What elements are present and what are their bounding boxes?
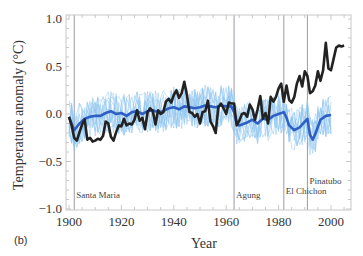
x-tick-label: 1980 [266, 214, 292, 229]
volcano-label: El Chichon [286, 186, 327, 196]
x-tick-label: 1920 [108, 214, 134, 229]
x-tick-label: 1940 [161, 214, 187, 229]
y-tick-label: 1.0 [46, 11, 62, 26]
y-axis-tick-labels: 1.00.50.0−0.5−1.0 [38, 11, 62, 216]
panel-label: (b) [14, 234, 27, 246]
volcano-label: Pinatubo [309, 176, 342, 186]
y-tick-label: 0.0 [46, 106, 62, 121]
x-axis-tick-labels: 190019201940196019802000 [56, 214, 344, 229]
x-tick-label: 2000 [318, 214, 344, 229]
temperature-anomaly-chart: 1.00.50.0−0.5−1.0 1900192019401960198020… [0, 0, 363, 256]
y-axis-title: Temperature anomaly (°C) [11, 40, 27, 190]
volcano-label: Santa Maria [76, 190, 120, 200]
y-tick-label: −0.5 [38, 154, 62, 169]
volcano-label: Agung [236, 190, 261, 200]
x-tick-label: 1900 [56, 214, 82, 229]
x-tick-label: 1960 [213, 214, 239, 229]
volcano-labels: Santa MariaAgungEl ChichonPinatubo [76, 176, 342, 199]
x-axis-title: Year [191, 236, 217, 251]
y-tick-label: 0.5 [46, 59, 62, 74]
